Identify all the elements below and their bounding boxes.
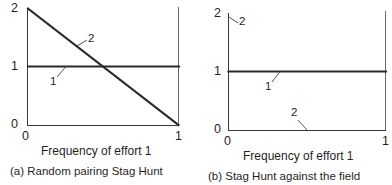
panel-b-label-strategy-2-top: 2 [239,16,245,28]
chart-panel-b: 2 1 0 0 1 2 1 2 Frequency of effort 1 (b… [196,0,392,185]
panel-a-x-tick-1: 1 [175,130,182,143]
panel-b-leader-strategy-2-top [229,17,238,23]
panel-b-y-tick-2: 2 [214,7,221,20]
panel-b-y-tick-1: 1 [214,65,221,78]
panel-b-y-tick-0: 0 [214,123,221,136]
figure-root: 2 1 0 0 1 2 1 Frequency of effort 1 (a) … [0,0,392,185]
panel-a-x-tick-0: 0 [22,130,29,143]
panel-b-leader-strategy-2-bottom [298,120,307,130]
panel-b-leader-strategy-1 [272,72,280,83]
panel-b-label-strategy-1: 1 [265,81,271,93]
panel-b-caption: (b) Stag Hunt against the field [208,171,360,183]
panel-a-y-tick-2: 2 [11,2,18,15]
panel-a-label-strategy-1: 1 [50,76,56,88]
panel-a-caption: (a) Random pairing Stag Hunt [10,166,163,178]
panel-a-leader-strategy-1 [57,67,66,78]
panel-b-x-axis-title: Frequency of effort 1 [243,150,354,162]
panel-a-y-tick-1: 1 [11,60,18,73]
panel-b-label-strategy-2-bottom: 2 [291,107,297,119]
panel-a-y-tick-0: 0 [11,118,18,131]
panel-a-label-strategy-2: 2 [88,33,94,45]
panel-a-x-axis-title: Frequency of effort 1 [41,145,152,157]
chart-panel-a: 2 1 0 0 1 2 1 Frequency of effort 1 (a) … [0,0,196,185]
panel-b-x-tick-1: 1 [382,135,389,148]
panel-b-x-tick-0: 0 [224,135,231,148]
panel-a-leader-strategy-2 [77,40,87,46]
